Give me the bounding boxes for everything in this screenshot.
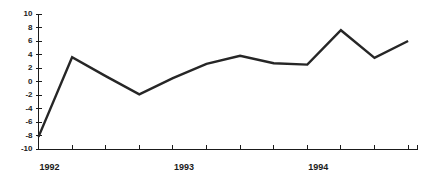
x-axis: 199219931994 (39, 145, 419, 172)
y-tick-label: 4 (28, 50, 33, 59)
x-tick-label: 1993 (174, 162, 194, 172)
line-chart: 1086420-2-4-6-8-10 199219931994 (0, 0, 423, 179)
x-axis-tick-labels: 199219931994 (39, 162, 328, 172)
y-tick-label: 6 (28, 36, 33, 45)
y-tick-label: -8 (25, 131, 33, 140)
y-tick-label: -10 (21, 144, 33, 153)
data-series-line (39, 30, 409, 137)
y-tick-label: -6 (25, 117, 33, 126)
y-tick-label: 10 (24, 9, 33, 18)
y-axis: 1086420-2-4-6-8-10 (21, 9, 42, 153)
y-tick-label: 0 (28, 77, 33, 86)
y-tick-label: -2 (25, 90, 33, 99)
chart-canvas: 1086420-2-4-6-8-10 199219931994 (0, 0, 423, 179)
x-axis-ticks (39, 145, 418, 149)
y-tick-label: 8 (28, 23, 33, 32)
x-tick-label: 1992 (39, 162, 59, 172)
x-tick-label: 1994 (308, 162, 328, 172)
y-axis-tick-labels: 1086420-2-4-6-8-10 (21, 9, 33, 153)
y-tick-label: -4 (25, 104, 33, 113)
y-tick-label: 2 (28, 63, 33, 72)
data-series-group (39, 30, 409, 137)
